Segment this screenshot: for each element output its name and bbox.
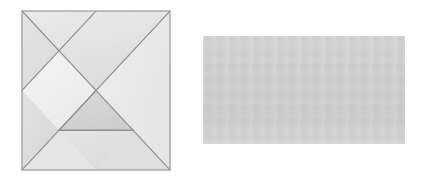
gray-rectangle-figure — [203, 36, 405, 144]
tangram-square-figure — [20, 9, 174, 173]
gray-rectangle-shape — [203, 36, 405, 144]
tangram-svg — [20, 9, 174, 173]
scene-canvas — [0, 0, 424, 181]
